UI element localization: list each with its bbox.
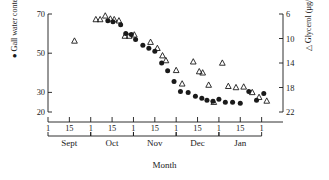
data-point-water-content (140, 43, 145, 48)
data-point-water-content (230, 100, 235, 105)
y-axis-right-tick-label: 10 (286, 35, 294, 44)
data-point-glycerol (72, 38, 78, 43)
month-label: Dec (190, 138, 205, 148)
data-point-water-content (133, 37, 138, 42)
data-point-water-content (186, 90, 191, 95)
month-label: Sept (61, 138, 78, 148)
data-point-water-content (238, 101, 243, 106)
data-point-glycerol (190, 59, 196, 64)
data-point-glycerol (179, 81, 185, 86)
data-point-water-content (178, 89, 183, 94)
x-axis-day-label: 15 (108, 124, 116, 133)
data-point-water-content (204, 98, 209, 103)
y-axis-left-tick-label: 20 (37, 108, 45, 117)
data-point-glycerol (97, 16, 103, 21)
data-point-glycerol (233, 84, 239, 89)
x-axis-day-label: 15 (193, 124, 201, 133)
x-axis-day-label: 1 (174, 124, 178, 133)
data-point-water-content (199, 96, 204, 101)
y-axis-left-tick-label: 30 (37, 88, 45, 97)
y-axis-right-tick-label: 6 (286, 10, 290, 19)
scatter-plot-canvas: 705030206101418221151151151151151SeptOct… (0, 0, 329, 180)
data-point-water-content (146, 46, 151, 51)
x-axis-title: Month (0, 160, 329, 170)
data-point-water-content (172, 79, 177, 84)
x-axis-day-label: 15 (236, 124, 244, 133)
data-point-glycerol (219, 60, 225, 65)
x-axis-day-label: 1 (260, 124, 264, 133)
y-axis-right-tick-label: 18 (286, 84, 294, 93)
data-point-glycerol (256, 94, 262, 99)
y-axis-left-tick-label: 70 (37, 10, 45, 19)
data-point-glycerol (160, 53, 166, 58)
x-axis-day-label: 15 (65, 124, 73, 133)
x-axis-day-label: 15 (151, 124, 159, 133)
data-point-water-content (261, 91, 266, 96)
data-point-water-content (223, 100, 228, 105)
data-point-glycerol (102, 13, 108, 18)
data-point-glycerol (155, 45, 161, 50)
data-point-glycerol (264, 98, 270, 103)
month-label: Oct (106, 138, 119, 148)
y-axis-right-tick-label: 22 (286, 108, 294, 117)
y-axis-left-tick-label: 50 (37, 49, 45, 58)
data-point-water-content (193, 94, 198, 99)
data-point-glycerol (206, 82, 212, 87)
data-point-water-content (165, 68, 170, 73)
x-axis-day-label: 1 (131, 124, 135, 133)
y-axis-right-tick-label: 14 (286, 59, 295, 68)
data-point-glycerol (225, 83, 231, 88)
figure-container: ● Gall water content (%) △ Glycerol (µg/… (0, 0, 329, 180)
data-point-glycerol (148, 39, 154, 44)
data-point-glycerol (241, 84, 247, 89)
data-point-water-content (216, 97, 221, 102)
month-label: Nov (147, 138, 163, 148)
x-axis-day-label: 1 (89, 124, 93, 133)
x-axis-day-label: 1 (46, 124, 50, 133)
data-point-glycerol (116, 18, 122, 23)
month-label: Jan (234, 138, 246, 148)
data-point-glycerol (173, 67, 179, 72)
x-axis-day-label: 1 (217, 124, 221, 133)
